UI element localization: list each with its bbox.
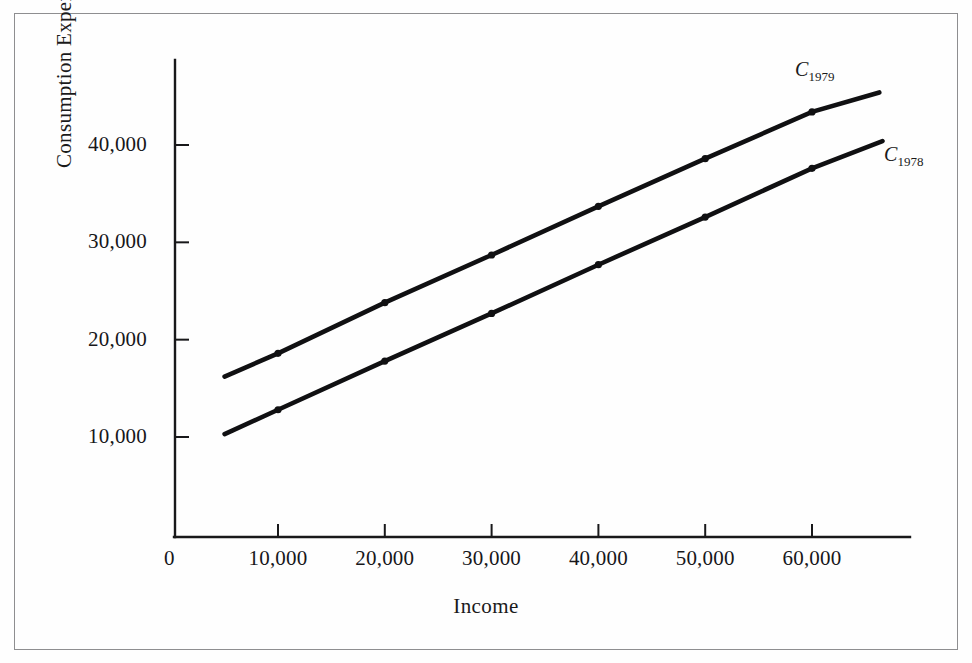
x-tick-label: 20,000 xyxy=(325,546,445,571)
data-point-marker xyxy=(488,310,495,317)
curve-label-c1978-subscript: 1978 xyxy=(898,154,924,169)
y-tick-label: 10,000 xyxy=(0,424,161,449)
origin-tick-label: 0 xyxy=(164,546,175,571)
data-point-marker xyxy=(274,350,281,357)
y-tick-group xyxy=(175,145,189,437)
figure-root: 0 Consumption Expenditures Income C1979 … xyxy=(0,0,972,663)
data-point-marker xyxy=(808,108,815,115)
x-tick-label: 40,000 xyxy=(538,546,658,571)
data-point-marker xyxy=(595,261,602,268)
series-line-c1978 xyxy=(225,141,883,434)
y-tick-label: 30,000 xyxy=(0,229,161,254)
data-point-marker xyxy=(381,299,388,306)
x-tick-group xyxy=(278,524,812,537)
curve-label-c1979: C1979 xyxy=(795,58,835,85)
curve-label-c1978-base: C xyxy=(884,143,898,165)
curve-label-c1979-subscript: 1979 xyxy=(809,69,835,84)
axis-group xyxy=(174,60,910,537)
x-axis-title: Income xyxy=(0,594,972,619)
x-tick-label: 50,000 xyxy=(645,546,765,571)
data-point-marker xyxy=(381,357,388,364)
curve-label-c1979-base: C xyxy=(795,58,809,80)
data-point-marker xyxy=(274,406,281,413)
data-point-marker xyxy=(702,155,709,162)
data-point-marker xyxy=(702,213,709,220)
series-line-c1979 xyxy=(225,92,880,376)
data-point-marker xyxy=(808,165,815,172)
data-point-marker xyxy=(595,203,602,210)
data-point-marker xyxy=(488,251,495,258)
y-tick-label: 40,000 xyxy=(0,132,161,157)
x-tick-label: 10,000 xyxy=(218,546,338,571)
curve-label-c1978: C1978 xyxy=(884,143,924,170)
x-tick-label: 30,000 xyxy=(432,546,552,571)
series-group xyxy=(225,92,883,434)
y-tick-label: 20,000 xyxy=(0,327,161,352)
x-tick-label: 60,000 xyxy=(752,546,872,571)
